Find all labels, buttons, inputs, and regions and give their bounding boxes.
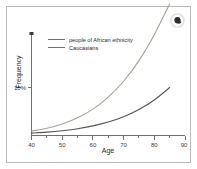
y-axis-cap	[30, 32, 34, 35]
x-tick-label-3: 70	[120, 142, 127, 148]
x-tick-label-4: 80	[151, 142, 158, 148]
x-axis-title: Age	[102, 147, 115, 155]
series-line-african-ethnicity	[32, 4, 170, 131]
x-tick-label-2: 60	[90, 142, 97, 148]
series-line-caucasians	[32, 88, 170, 134]
x-tick-label-1: 50	[59, 142, 66, 148]
x-tick-label-5: 90	[181, 142, 188, 148]
chart-figure: 40 50 60 70 80 90 10% Age Frequency peop…	[0, 0, 197, 169]
y-axis-title: Frequency	[15, 55, 23, 89]
legend-label-caucasians: Caucasians	[69, 45, 98, 51]
x-tick-label-0: 40	[28, 142, 35, 148]
dark-circle-badge-icon[interactable]	[170, 13, 185, 28]
chart-legend: people of African ethnicity Caucasians	[48, 37, 133, 51]
plot-area: 40 50 60 70 80 90 10% Age Frequency peop…	[0, 0, 197, 169]
legend-label-african-ethnicity: people of African ethnicity	[69, 37, 133, 43]
